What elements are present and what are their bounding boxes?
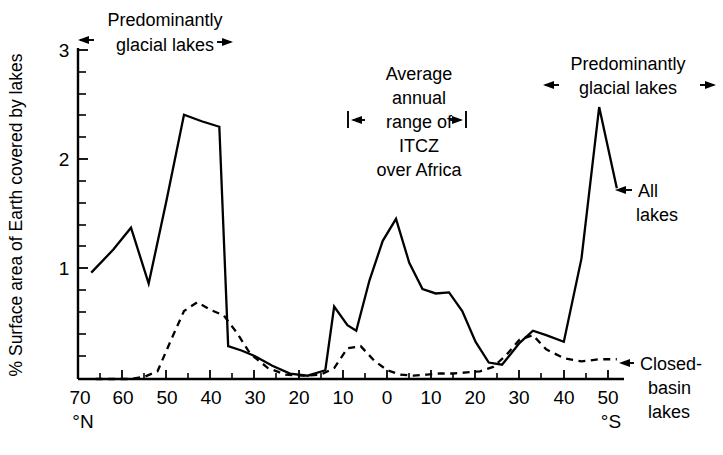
glacial-north-right-arrow-head xyxy=(222,38,233,46)
itcz-left-arrow-head xyxy=(351,116,362,124)
x-tick-label-70N: 70 xyxy=(69,387,90,408)
annotation-all-lakes: All lakes xyxy=(615,181,678,225)
annotation-all-lakes-line2: lakes xyxy=(636,205,678,225)
annotation-itcz-line3: range of xyxy=(386,112,453,132)
annotation-itcz-line2: annual xyxy=(392,88,446,108)
x-tick-label-10N: 10 xyxy=(332,387,353,408)
annotation-closed-basin: Closed- basin lakes xyxy=(619,354,702,422)
annotation-itcz-line5: over Africa xyxy=(376,160,462,180)
annotation-glacial-north: Predominantly glacial lakes xyxy=(78,10,233,55)
x-tick-label-60N: 60 xyxy=(112,387,133,408)
closed-basin-arrow-head xyxy=(619,359,630,367)
itcz-right-arrow-head xyxy=(452,116,463,124)
x-tick-label-50N: 50 xyxy=(156,387,177,408)
glacial-south-right-arrow-head xyxy=(705,81,716,89)
y-tick-label-1: 1 xyxy=(59,258,70,279)
x-tick-label-30N: 30 xyxy=(244,387,265,408)
annotation-glacial-north-line2: glacial lakes xyxy=(116,35,214,55)
hemisphere-label-north: °N xyxy=(72,411,93,432)
axes xyxy=(78,48,624,379)
glacial-north-left-arrow-head xyxy=(78,36,89,44)
y-axis-title-group: % Surface area of Earth covered by lakes xyxy=(6,53,26,376)
annotation-all-lakes-line1: All xyxy=(638,181,658,201)
annotation-glacial-south-line1: Predominantly xyxy=(570,54,685,74)
y-tick-label-3: 3 xyxy=(59,40,70,61)
lake-area-latitude-chart: 3 2 1 xyxy=(0,0,723,455)
figure-container: 3 2 1 xyxy=(0,0,723,455)
data-series xyxy=(91,107,617,379)
series-all-lakes-line xyxy=(91,107,617,376)
x-tick-label-40N: 40 xyxy=(200,387,221,408)
glacial-south-left-arrow-head xyxy=(543,81,554,89)
x-tick-label-10S: 10 xyxy=(420,387,441,408)
annotation-glacial-north-line1: Predominantly xyxy=(107,10,222,30)
annotation-glacial-south-line2: glacial lakes xyxy=(579,78,677,98)
annotation-glacial-south: Predominantly glacial lakes xyxy=(543,54,716,98)
x-tick-label-50S: 50 xyxy=(597,387,618,408)
x-tick-label-20S: 20 xyxy=(464,387,485,408)
hemisphere-label-south: °S xyxy=(601,411,621,432)
annotation-closed-basin-line1: Closed- xyxy=(640,354,702,374)
annotation-itcz-line4: ITCZ xyxy=(399,136,439,156)
x-tick-label-20N: 20 xyxy=(288,387,309,408)
x-tick-label-0: 0 xyxy=(382,387,393,408)
annotation-itcz: Average annual range of ITCZ over Africa xyxy=(348,64,466,180)
y-axis-title: % Surface area of Earth covered by lakes xyxy=(6,53,26,376)
series-closed-basin-line xyxy=(96,302,617,379)
y-tick-label-2: 2 xyxy=(59,149,70,170)
annotation-closed-basin-line2: basin xyxy=(648,378,691,398)
x-tick-label-30S: 30 xyxy=(508,387,529,408)
annotation-itcz-line1: Average xyxy=(386,64,453,84)
x-tick-label-40S: 40 xyxy=(553,387,574,408)
y-axis-ticks: 3 2 1 xyxy=(59,40,88,356)
annotation-closed-basin-line3: lakes xyxy=(648,402,690,422)
